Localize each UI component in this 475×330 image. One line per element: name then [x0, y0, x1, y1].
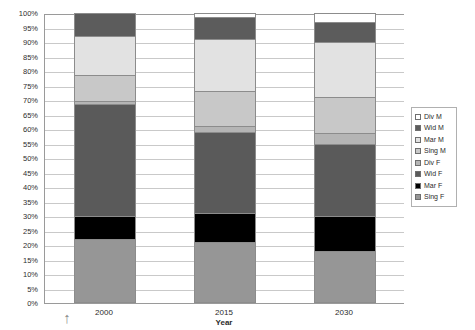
- legend-item-label: Wid M: [424, 124, 444, 132]
- y-axis-tick-label: 80%: [0, 68, 38, 76]
- y-axis-tick-label: 70%: [0, 97, 38, 105]
- x-axis-tick-label: 2015: [184, 308, 264, 317]
- bar-segment-2015-mar-f[interactable]: [194, 213, 256, 242]
- legend-item-div-m[interactable]: Div M: [415, 111, 454, 123]
- bar-segment-2015-wid-f[interactable]: [194, 132, 256, 213]
- y-axis-tick-label: 60%: [0, 126, 38, 134]
- y-axis-tick-label: 65%: [0, 112, 38, 120]
- x-axis-tick-label: 2030: [304, 308, 384, 317]
- bar-segment-2000-wid-m[interactable]: [74, 13, 136, 36]
- y-axis-tick-label: 35%: [0, 199, 38, 207]
- legend-swatch-icon: [415, 125, 421, 131]
- legend-item-label: Div F: [424, 159, 440, 167]
- bar-segment-2015-div-m[interactable]: [194, 13, 256, 17]
- bar-segment-2030-sing-f[interactable]: [314, 251, 376, 303]
- legend-item-wid-f[interactable]: Wid F: [415, 169, 454, 181]
- plot-area: [44, 14, 404, 304]
- legend-swatch-icon: [415, 137, 421, 143]
- legend-swatch-icon: [415, 194, 421, 200]
- legend-swatch-icon: [415, 114, 421, 120]
- legend-item-div-f[interactable]: Div F: [415, 157, 454, 169]
- bar-2030[interactable]: [314, 13, 376, 303]
- bar-segment-2015-sing-m[interactable]: [194, 91, 256, 126]
- stacked-bar-chart: 0%5%10%15%20%25%30%35%40%45%50%55%60%65%…: [0, 0, 475, 330]
- bar-segment-2030-wid-f[interactable]: [314, 144, 376, 217]
- y-axis-tick-label: 15%: [0, 257, 38, 265]
- bar-segment-2015-div-f[interactable]: [194, 126, 256, 132]
- bar-segment-2030-sing-m[interactable]: [314, 97, 376, 133]
- bar-segment-2000-sing-f[interactable]: [74, 239, 136, 303]
- bar-segment-2030-mar-f[interactable]: [314, 216, 376, 251]
- bar-2015[interactable]: [194, 13, 256, 303]
- chart-legend: Div MWid MMar MSing MDiv FWid FMar FSing…: [411, 107, 457, 207]
- y-axis-tick-label: 100%: [0, 10, 38, 18]
- bar-segment-2015-wid-m[interactable]: [194, 17, 256, 39]
- legend-item-label: Sing M: [424, 147, 446, 155]
- x-axis-tick-label: 2000: [64, 308, 144, 317]
- y-axis-tick-label: 20%: [0, 242, 38, 250]
- legend-item-sing-m[interactable]: Sing M: [415, 146, 454, 158]
- bar-segment-2030-div-m[interactable]: [314, 13, 376, 22]
- legend-item-label: Sing F: [424, 193, 444, 201]
- legend-item-mar-f[interactable]: Mar F: [415, 180, 454, 192]
- y-axis-tick-label: 85%: [0, 54, 38, 62]
- y-axis-tick-label: 40%: [0, 184, 38, 192]
- y-axis-tick-label: 10%: [0, 271, 38, 279]
- legend-item-wid-m[interactable]: Wid M: [415, 123, 454, 135]
- legend-swatch-icon: [415, 148, 421, 154]
- y-axis-tick-label: 5%: [0, 286, 38, 294]
- bar-segment-2030-mar-m[interactable]: [314, 42, 376, 97]
- bar-segment-2000-mar-f[interactable]: [74, 216, 136, 239]
- bar-segment-2000-wid-f[interactable]: [74, 104, 136, 216]
- bar-segment-2030-div-f[interactable]: [314, 133, 376, 143]
- legend-item-label: Wid F: [424, 170, 442, 178]
- legend-swatch-icon: [415, 160, 421, 166]
- legend-swatch-icon: [415, 171, 421, 177]
- bar-segment-2000-div-f[interactable]: [74, 101, 136, 104]
- bar-2000[interactable]: [74, 13, 136, 303]
- legend-swatch-icon: [415, 183, 421, 189]
- y-axis-tick-label: 90%: [0, 39, 38, 47]
- bar-segment-2030-wid-m[interactable]: [314, 22, 376, 42]
- y-axis-tick-label: 75%: [0, 83, 38, 91]
- legend-item-mar-m[interactable]: Mar M: [415, 134, 454, 146]
- bar-segment-2000-mar-m[interactable]: [74, 36, 136, 75]
- x-axis-title: Year: [44, 318, 404, 327]
- y-axis-tick-label: 95%: [0, 25, 38, 33]
- legend-item-label: Mar M: [424, 136, 444, 144]
- legend-item-sing-f[interactable]: Sing F: [415, 192, 454, 204]
- legend-item-label: Div M: [424, 113, 442, 121]
- y-axis-tick-label: 45%: [0, 170, 38, 178]
- bar-segment-2000-sing-m[interactable]: [74, 75, 136, 101]
- bar-segment-2015-mar-m[interactable]: [194, 39, 256, 91]
- bar-segment-2015-sing-f[interactable]: [194, 242, 256, 303]
- y-axis-tick-label: 0%: [0, 300, 38, 308]
- y-axis-tick-label: 55%: [0, 141, 38, 149]
- y-axis-tick-label: 25%: [0, 228, 38, 236]
- arrow-annotation-icon: ↑: [60, 308, 74, 328]
- legend-item-label: Mar F: [424, 182, 442, 190]
- y-axis-tick-label: 30%: [0, 213, 38, 221]
- y-axis-tick-label: 50%: [0, 155, 38, 163]
